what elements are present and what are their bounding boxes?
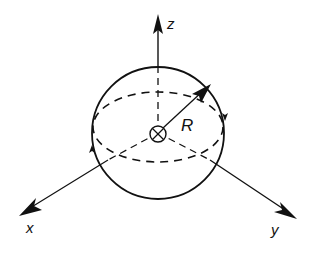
radius-arrowhead-icon	[192, 84, 211, 103]
y-axis	[158, 133, 297, 219]
x-axis	[19, 133, 158, 216]
x-axis-label: x	[25, 219, 34, 236]
z-axis	[153, 14, 163, 133]
z-axis-label: z	[166, 15, 175, 32]
x-arrowhead-icon	[19, 198, 42, 216]
sphere-diagram: z x y R	[0, 0, 322, 255]
radius-label: R	[181, 116, 193, 135]
into-page-icon	[150, 126, 166, 142]
y-axis-label: y	[270, 221, 280, 238]
